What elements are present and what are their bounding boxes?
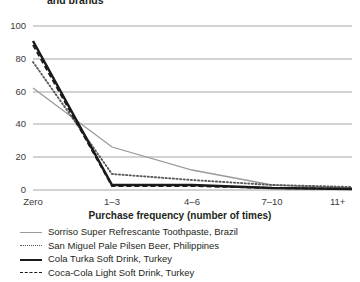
legend-item-coca-cola-light[interactable]: Coca-Cola Light Soft Drink, Turkey: [20, 266, 360, 280]
legend-label: Coca-Cola Light Soft Drink, Turkey: [48, 267, 194, 278]
y-tick-label-100: 100: [0, 20, 26, 31]
dashed-black-line-icon: [20, 267, 42, 277]
chart-legend: Sorriso Super Refrescante Toothpaste, Br…: [20, 225, 360, 279]
legend-item-cola-turka[interactable]: Cola Turka Soft Drink, Turkey: [20, 252, 360, 266]
x-tick-label-1-3: 1–3: [92, 196, 132, 207]
series-line-sorriso: [33, 88, 352, 188]
chart-plot-area: 100 80 60 40 20 0 Zero 1–3 4–6 7–10 11+: [0, 0, 360, 200]
dotted-line-icon: [20, 240, 42, 250]
x-tick-label-11plus: 11+: [330, 196, 360, 207]
x-axis-title: Purchase frequency (number of times): [0, 210, 360, 221]
legend-label: San Miguel Pale Pilsen Beer, Philippines: [48, 240, 219, 251]
thin-gray-line-icon: [20, 227, 42, 237]
x-tick-label-7-10: 7–10: [252, 196, 292, 207]
gridlines: [33, 26, 352, 190]
legend-item-san-miguel[interactable]: San Miguel Pale Pilsen Beer, Philippines: [20, 239, 360, 253]
series-line-coca-cola-light: [33, 45, 352, 189]
series-line-cola-turka: [33, 41, 352, 189]
y-tick-label-0: 0: [0, 184, 26, 195]
thick-black-line-icon: [20, 254, 42, 264]
y-tick-label-60: 60: [0, 86, 26, 97]
legend-item-sorriso[interactable]: Sorriso Super Refrescante Toothpaste, Br…: [20, 225, 360, 239]
x-tick-label-4-6: 4–6: [172, 196, 212, 207]
y-tick-label-80: 80: [0, 53, 26, 64]
legend-label: Sorriso Super Refrescante Toothpaste, Br…: [48, 226, 238, 237]
y-tick-label-40: 40: [0, 118, 26, 129]
y-tick-label-20: 20: [0, 151, 26, 162]
line-chart-svg: [0, 0, 360, 200]
legend-label: Cola Turka Soft Drink, Turkey: [48, 253, 172, 264]
x-tick-label-zero: Zero: [13, 196, 53, 207]
